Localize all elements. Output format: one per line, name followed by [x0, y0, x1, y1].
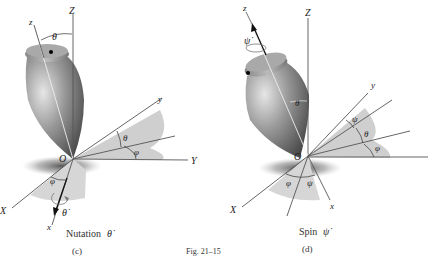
theta-top-label: θ [52, 31, 57, 42]
phi-bottom-label: φ [50, 176, 55, 186]
psi-plane-label: ψ [352, 114, 358, 124]
panel-d-sub-label: (d) [302, 244, 313, 254]
phi-plane-label: φ [375, 143, 380, 153]
Y-axis-label: Y [191, 155, 198, 166]
phi-bottom-label: φ [286, 178, 291, 188]
euler-angles-figure: Z z θ y Y θ φ X x θ̇ φ O [0, 0, 430, 258]
panel-d-rate-symbol: ψ̇ [323, 226, 332, 237]
panel-c-title: Nutation [66, 228, 101, 239]
panel-d-spin: Z z ψ̇ θ y ψ θ φ X x φ ψ [229, 3, 428, 254]
theta-plane-label: θ [123, 133, 128, 143]
spinning-top-body [26, 57, 84, 159]
panel-c-nutation: Z z θ y Y θ φ X x θ̇ φ O [0, 5, 198, 256]
theta-dot-label: θ̇ [62, 207, 70, 218]
origin-label: O [294, 151, 301, 162]
top-cap-face [26, 44, 68, 58]
theta-dot-arrowhead [53, 207, 59, 216]
theta-plane-label: θ [364, 129, 369, 139]
marker-dot [49, 50, 53, 54]
X-axis-label: X [229, 204, 237, 215]
y-axis-label: y [370, 80, 375, 90]
x-axis-label: x [329, 201, 334, 211]
psi-bottom-label: ψ [307, 178, 313, 188]
Z-axis-label: Z [305, 7, 311, 18]
psi-dot-arrowhead [251, 23, 257, 32]
z-axis-label: z [28, 17, 33, 27]
theta-body-label: θ [295, 98, 300, 108]
psi-dot-vector [254, 28, 266, 55]
z-axis-top [246, 12, 252, 24]
figure-caption: Fig. 21–15 [186, 247, 221, 256]
panel-d-title: Spin [299, 226, 317, 237]
x-axis-label: x [46, 222, 51, 232]
y-axis-label: y [157, 94, 162, 104]
marker-dot [246, 71, 250, 75]
X-axis-label: X [0, 205, 7, 216]
panel-c-sub-label: (c) [72, 246, 82, 256]
z-axis-label: z [242, 3, 247, 13]
Z-axis-label: Z [69, 5, 75, 16]
origin-label: O [59, 153, 66, 164]
phi-plane-label: φ [134, 147, 139, 157]
panel-c-rate-symbol: θ̇ [107, 228, 115, 239]
